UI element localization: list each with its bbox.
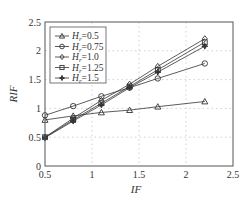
line-chart: 0.511.522.5 00.511.522.5 IF RIF Hr=0.5Hr… xyxy=(0,0,251,204)
x-tick-label: 1 xyxy=(90,169,95,180)
x-axis-label: IF xyxy=(130,183,142,195)
x-axis-ticks: 0.511.522.5 xyxy=(39,169,240,180)
x-tick-label: 2 xyxy=(184,169,189,180)
y-tick-label: 0 xyxy=(36,161,41,172)
y-axis-label: RIF xyxy=(7,85,19,103)
y-tick-label: 2 xyxy=(36,45,41,56)
x-tick-label: 2.5 xyxy=(227,169,240,180)
y-tick-label: 1.5 xyxy=(29,74,42,85)
y-tick-label: 0.5 xyxy=(29,132,42,143)
legend: Hr=0.5Hr=0.75Hr=1.0Hr=1.25Hr=1.5 xyxy=(50,27,106,85)
y-tick-label: 1 xyxy=(36,103,41,114)
y-tick-label: 2.5 xyxy=(29,17,42,28)
series-line xyxy=(45,101,205,119)
x-tick-label: 1.5 xyxy=(133,169,146,180)
series-Hr=0.5 xyxy=(42,98,208,122)
y-axis-ticks: 00.511.522.5 xyxy=(29,17,42,172)
marker-triangle xyxy=(202,98,208,103)
